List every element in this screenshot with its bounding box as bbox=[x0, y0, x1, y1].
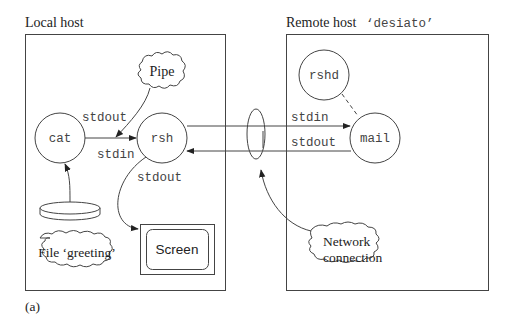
rsh-diagram: Local host Remote host ‘desiato’ Pipe ca… bbox=[0, 0, 507, 323]
file-to-cat-arrow bbox=[65, 164, 70, 202]
cat-label: cat bbox=[49, 132, 72, 146]
pipe-cloud: Pipe bbox=[138, 52, 185, 89]
mail-process: mail bbox=[350, 113, 400, 163]
remote-host-label: Remote host bbox=[286, 15, 356, 30]
rsh-stdout-label: stdout bbox=[137, 171, 182, 185]
file-disk-icon bbox=[40, 202, 100, 220]
cat-stdout-label: stdout bbox=[82, 111, 127, 125]
rshd-label: rshd bbox=[309, 69, 339, 83]
network-connection-cloud: Network connection bbox=[309, 222, 383, 265]
mail-stdout-label: stdout bbox=[291, 136, 336, 150]
file-greeting-label: File ‘greeting’ bbox=[38, 245, 116, 260]
rshd-mail-dashed-link bbox=[342, 94, 358, 116]
cat-process: cat bbox=[35, 113, 85, 163]
remote-host-title: Remote host ‘desiato’ bbox=[286, 15, 434, 31]
rsh-process: rsh bbox=[137, 113, 187, 163]
mail-label: mail bbox=[360, 132, 390, 146]
remote-hostname: ‘desiato’ bbox=[366, 17, 434, 31]
network-label-line1: Network bbox=[323, 234, 370, 249]
mail-stdin-label: stdin bbox=[291, 111, 329, 125]
network-label-line2: connection bbox=[323, 250, 382, 265]
local-host-title: Local host bbox=[25, 15, 84, 30]
rsh-stdin-label: stdin bbox=[97, 148, 135, 162]
screen-label: Screen bbox=[156, 242, 199, 257]
rsh-to-screen-arrow bbox=[118, 157, 146, 229]
figure-caption: (a) bbox=[25, 299, 40, 314]
rshd-process: rshd bbox=[299, 50, 349, 100]
pipe-label: Pipe bbox=[150, 64, 175, 79]
rsh-label: rsh bbox=[151, 132, 174, 146]
screen-box: Screen bbox=[141, 225, 215, 275]
